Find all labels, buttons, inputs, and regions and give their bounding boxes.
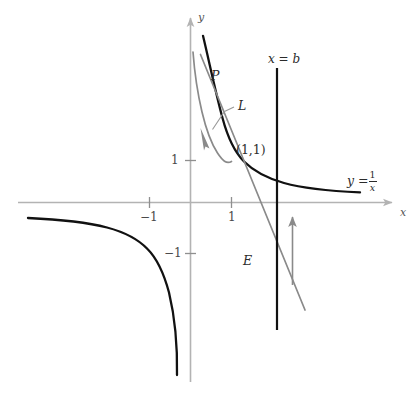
graph-canvas [0, 0, 413, 396]
x-axis-label: x [400, 207, 406, 218]
point-p-label: P [211, 70, 219, 83]
axis-group [18, 18, 392, 382]
tangent-line-at-point [201, 55, 306, 311]
y-tick-label-neg1: −1 [164, 247, 182, 259]
hyperbola-equation-lead: y = [347, 173, 369, 188]
hyperbola-equation-label: y =1x [347, 170, 377, 192]
fraction-denominator: x [369, 183, 377, 193]
y-tick-label-1: 1 [171, 154, 179, 166]
x-tick-label-1: 1 [228, 211, 236, 223]
hyperbola-equation-fraction: 1x [369, 170, 377, 192]
fraction-numerator: 1 [369, 170, 377, 180]
curve-l-label: L [238, 100, 246, 113]
y-axis-label: y [198, 12, 204, 23]
x-tick-label-neg1: −1 [140, 211, 158, 223]
hyperbola-left-branch [28, 218, 177, 375]
region-e-label: E [243, 255, 252, 268]
math-graph-figure: y x 1 −1 1 −1 P L (1,1) E x = b y =1x [0, 0, 413, 396]
point-one-one-label: (1,1) [236, 144, 266, 157]
vertical-line-label: x = b [268, 53, 300, 65]
